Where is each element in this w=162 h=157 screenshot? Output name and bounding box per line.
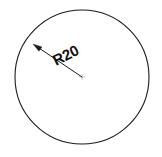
radius-dimension-label: R20: [50, 41, 82, 68]
cad-drawing-svg: Circle with radius dimension R20: [0, 0, 162, 157]
leader-arrowhead: [33, 44, 42, 51]
cad-drawing-canvas: Circle with radius dimension R20: [0, 0, 162, 157]
